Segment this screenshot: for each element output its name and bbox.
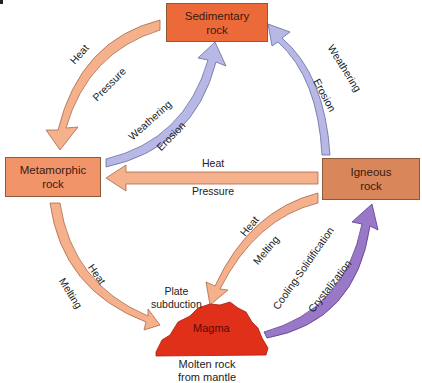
- metamorphic-rock-box: Metamorphic rock: [5, 157, 101, 197]
- igneous-rock-label: Igneous rock: [351, 165, 392, 193]
- sedimentary-rock-box: Sedimentary rock: [166, 3, 268, 42]
- metamorphic-rock-label: Metamorphic rock: [20, 163, 86, 191]
- plate-subduction-label: Plate subduction: [151, 285, 202, 311]
- arrow-magma-to-ign: [264, 204, 378, 338]
- arrow-met-to-magma: [50, 203, 160, 330]
- igneous-rock-box: Igneous rock: [322, 158, 420, 200]
- magma-caption: Molten rock from mantle: [178, 358, 236, 383]
- label-heat-ign-met: Heat: [202, 157, 224, 169]
- magma-label: Magma: [193, 322, 230, 334]
- label-pressure-ign-met: Pressure: [192, 185, 234, 197]
- sedimentary-rock-label: Sedimentary rock: [185, 9, 250, 37]
